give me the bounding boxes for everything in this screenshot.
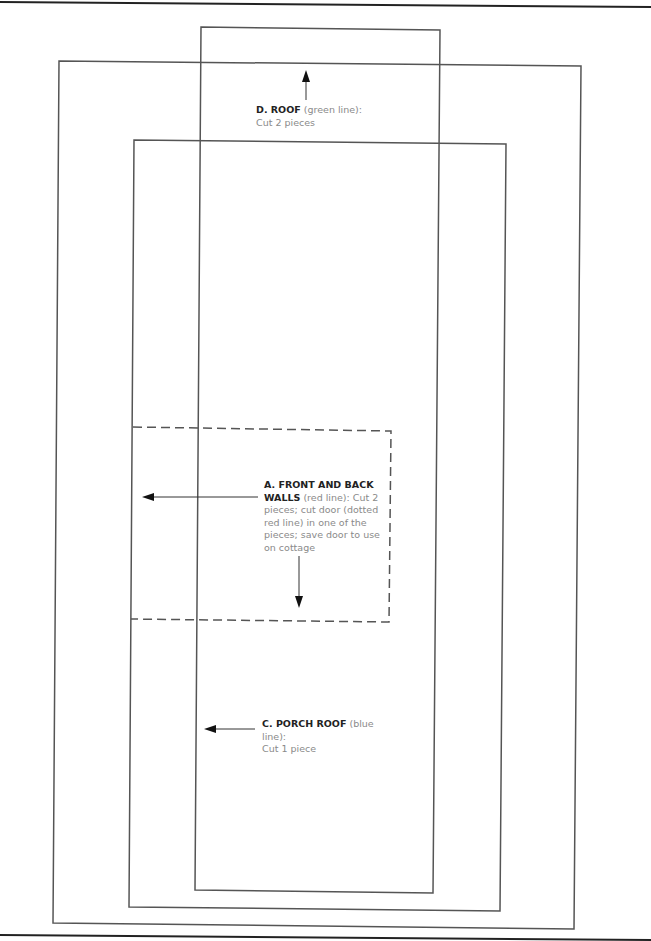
walls-instructions-4: on cottage — [264, 542, 315, 553]
porch-roof-instructions: Cut 1 piece — [262, 743, 316, 754]
roof-label: D. ROOF (green line): Cut 2 pieces — [256, 104, 396, 129]
pattern-diagram — [0, 0, 651, 941]
walls-note: (red line): Cut 2 — [303, 492, 378, 503]
walls-left-arrow-icon — [142, 493, 258, 501]
walls-down-arrow-icon — [295, 556, 303, 608]
bottom-border-line — [0, 935, 651, 940]
porch-roof-title: C. PORCH ROOF — [262, 718, 346, 729]
walls-title-line1: A. FRONT AND BACK — [264, 479, 374, 490]
walls-title-line2: WALLS — [264, 492, 300, 503]
walls-instructions-3: pieces; save door to use — [264, 529, 380, 540]
top-border-line — [0, 2, 651, 7]
walls-instructions-2: red line) in one of the — [264, 517, 367, 528]
porch-roof-label: C. PORCH ROOF (blue line): Cut 1 piece — [262, 718, 392, 756]
walls-instructions-1: pieces; cut door (dotted — [264, 504, 378, 515]
roof-title: D. ROOF — [256, 104, 301, 115]
roof-outline — [195, 27, 440, 893]
walls-label: A. FRONT AND BACK WALLS (red line): Cut … — [264, 479, 394, 554]
roof-note: (green line): — [304, 104, 362, 115]
porch-roof-arrow-icon — [204, 725, 255, 733]
roof-arrow-icon — [302, 70, 310, 100]
roof-instructions: Cut 2 pieces — [256, 117, 315, 128]
